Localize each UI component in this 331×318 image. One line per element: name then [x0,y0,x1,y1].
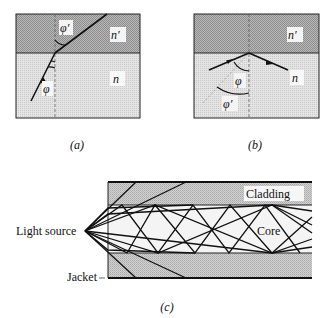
panel-b-total-internal-reflection: φ φ′ n′ n (b) [194,14,319,152]
caption-a: (a) [70,138,84,152]
caption-b: (b) [248,138,262,152]
phi-label: φ [43,82,50,96]
n-label: n [113,72,119,86]
optics-diagram: φ′ n′ n φ (a) φ φ′ n′ n (b) [0,0,331,318]
light-source-label: Light source [16,224,76,238]
core-label: Core [257,224,280,238]
phi-label: φ [235,74,242,88]
caption-c: (c) [160,300,173,314]
panel-a-refraction: φ′ n′ n φ (a) [16,14,140,152]
n-prime-label: n′ [288,28,297,42]
lower-cladding [108,253,312,278]
panel-c-optical-fiber: Cladding Core Light source Jacket (c) [16,182,312,314]
jacket-label: Jacket [67,270,98,284]
cladding-label: Cladding [246,187,290,201]
n-label: n [292,71,298,85]
phi-prime-label: φ′ [223,97,233,111]
lower-medium-region [194,53,319,118]
n-prime-label: n′ [111,28,120,42]
phi-prime-label: φ′ [60,21,70,35]
